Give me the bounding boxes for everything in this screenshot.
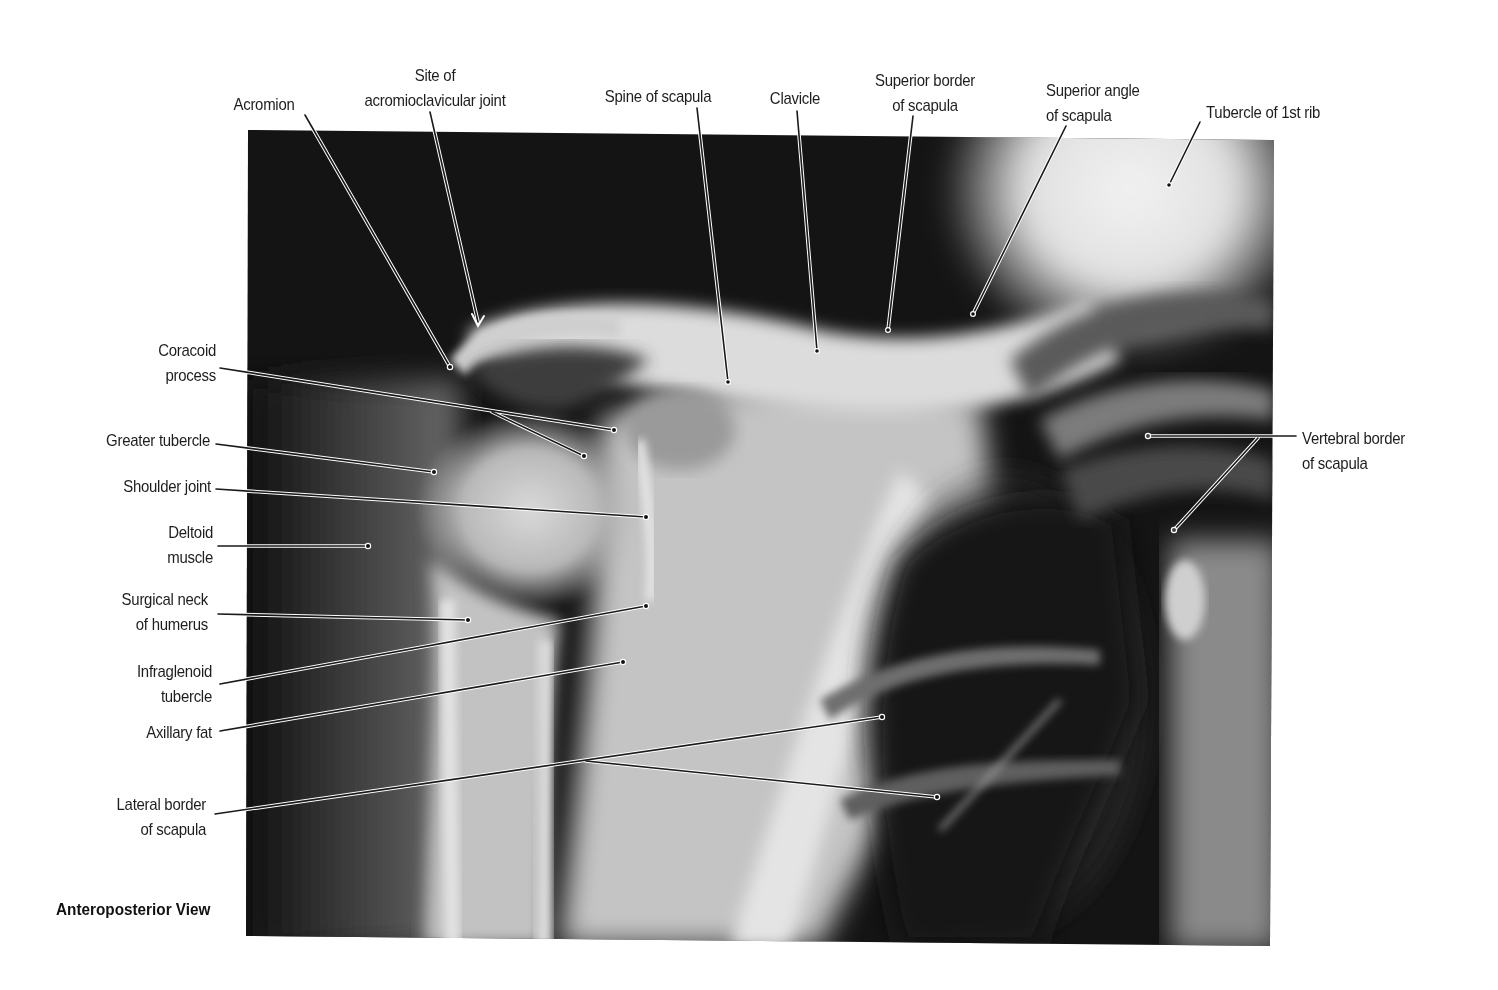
label-text: Axillary fat bbox=[105, 720, 212, 745]
label-greater-tubercle: Greater tubercle bbox=[78, 428, 210, 453]
label-spine-of-scapula: Spine of scapula bbox=[589, 84, 726, 109]
label-superior-angle-scapula: Superior angle of scapula bbox=[1046, 78, 1178, 128]
label-axillary-fat: Axillary fat bbox=[105, 720, 212, 745]
label-coracoid-process: Coracoid process bbox=[110, 338, 216, 388]
label-text: Spine of scapula bbox=[589, 84, 726, 109]
label-deltoid-muscle: Deltoid muscle bbox=[114, 520, 213, 570]
label-acromioclavicular-joint: Site of acromioclavicular joint bbox=[343, 63, 528, 113]
label-text: Tubercle of 1st rib bbox=[1206, 100, 1356, 125]
label-text: Deltoid bbox=[114, 520, 213, 545]
label-text: Surgical neck bbox=[95, 587, 208, 612]
label-surgical-neck-humerus: Surgical neck of humerus bbox=[95, 587, 208, 637]
label-text: Lateral border bbox=[86, 792, 206, 817]
label-text: Clavicle bbox=[757, 86, 833, 111]
label-text: Greater tubercle bbox=[78, 428, 210, 453]
label-text: tubercle bbox=[105, 684, 212, 709]
label-text: muscle bbox=[114, 545, 213, 570]
label-shoulder-joint: Shoulder joint bbox=[87, 474, 211, 499]
label-text: process bbox=[110, 363, 216, 388]
label-text: of scapula bbox=[861, 93, 989, 118]
label-vertebral-border-scapula: Vertebral border of scapula bbox=[1302, 426, 1443, 476]
label-tubercle-1st-rib: Tubercle of 1st rib bbox=[1206, 100, 1356, 125]
figure: Acromion Site of acromioclavicular joint… bbox=[0, 0, 1498, 990]
label-text: of scapula bbox=[1302, 451, 1443, 476]
label-text: of scapula bbox=[86, 817, 206, 842]
radiograph-image bbox=[0, 0, 1498, 990]
label-text: Shoulder joint bbox=[87, 474, 211, 499]
label-superior-border-scapula: Superior border of scapula bbox=[861, 68, 989, 118]
label-text: Vertebral border bbox=[1302, 426, 1443, 451]
label-text: Superior border bbox=[861, 68, 989, 93]
label-acromion: Acromion bbox=[220, 92, 308, 117]
label-text: of humerus bbox=[95, 612, 208, 637]
label-text: Site of bbox=[343, 63, 528, 88]
label-clavicle: Clavicle bbox=[757, 86, 833, 111]
label-text: Acromion bbox=[220, 92, 308, 117]
label-text: Superior angle bbox=[1046, 78, 1178, 103]
label-text: Infraglenoid bbox=[105, 659, 212, 684]
view-title: Anteroposterior View bbox=[56, 900, 210, 920]
label-text: Coracoid bbox=[110, 338, 216, 363]
label-lateral-border-scapula: Lateral border of scapula bbox=[86, 792, 206, 842]
label-infraglenoid-tubercle: Infraglenoid tubercle bbox=[105, 659, 212, 709]
label-text: of scapula bbox=[1046, 103, 1178, 128]
label-text: acromioclavicular joint bbox=[343, 88, 528, 113]
